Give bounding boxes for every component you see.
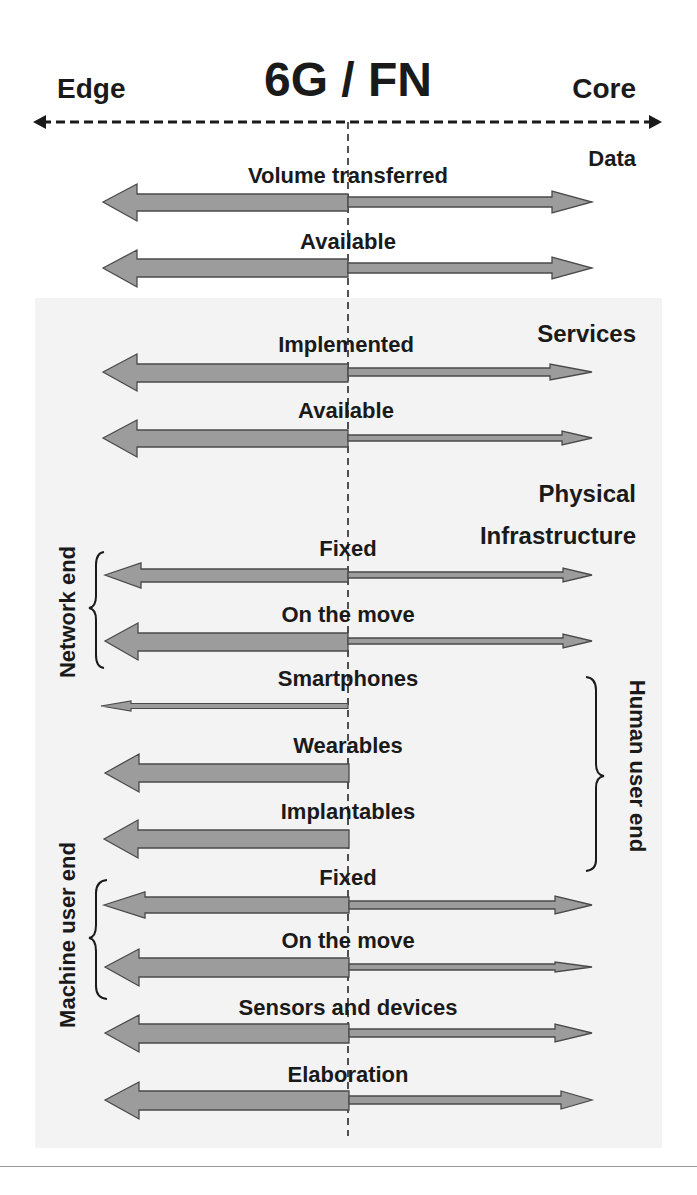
core-arrow-icon	[348, 257, 592, 279]
row-label: Fixed	[319, 865, 376, 890]
section-label-infrastructure: Infrastructure	[480, 522, 636, 549]
diagram-title: 6G / FN	[264, 53, 432, 106]
row-label: Smartphones	[278, 666, 419, 691]
axis-left-arrowhead-icon	[33, 115, 46, 129]
row-label: Fixed	[319, 536, 376, 561]
row-label: Implemented	[278, 332, 414, 357]
row-label: On the move	[281, 602, 414, 627]
row-label: On the move	[281, 928, 414, 953]
axis-right-arrowhead-icon	[649, 115, 662, 129]
row-label: Elaboration	[287, 1062, 408, 1087]
network-end-label: Network end	[55, 546, 80, 678]
edge-arrow-icon	[103, 250, 348, 287]
bottom-divider	[0, 1166, 697, 1167]
core-arrow-icon	[348, 191, 592, 213]
section-label-physical: Physical	[539, 480, 636, 507]
edge-label: Edge	[57, 73, 125, 104]
row-label: Implantables	[281, 799, 415, 824]
row-label: Wearables	[293, 733, 403, 758]
section-label-services: Services	[537, 320, 636, 347]
row-label: Volume transferred	[248, 163, 448, 188]
core-arrow-icon	[349, 962, 592, 972]
machine-user-end-label: Machine user end	[55, 842, 80, 1028]
section-label-data: Data	[588, 146, 636, 171]
edge-arrow-icon	[103, 184, 348, 221]
row-label: Available	[298, 398, 394, 423]
core-label: Core	[572, 73, 636, 104]
edge-core-diagram: 6G / FN Edge Core Data Services Physical…	[0, 0, 697, 1195]
human-user-end-label: Human user end	[625, 680, 650, 852]
row-label: Available	[300, 229, 396, 254]
row-label: Sensors and devices	[239, 995, 458, 1020]
